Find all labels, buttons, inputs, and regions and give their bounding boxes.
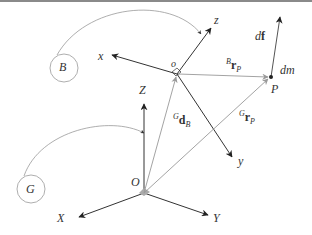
label-B: B — [59, 61, 66, 73]
label-Y: Y — [213, 212, 220, 224]
label-G: G — [26, 183, 35, 195]
label-dm: dm — [280, 64, 295, 76]
label-B-r-P: BrP — [226, 58, 241, 74]
vector-df — [271, 17, 280, 77]
global-frame-curve — [24, 126, 144, 176]
label-P: P — [271, 83, 278, 95]
label-X: X — [57, 212, 64, 224]
vector-r-P-body — [178, 74, 268, 77]
diagram-canvas: B G o x z y O Z X Y P dm df BrP GdB GrP — [0, 0, 312, 235]
label-O: O — [131, 176, 140, 188]
label-x: x — [98, 50, 103, 62]
label-y: y — [238, 155, 243, 167]
label-z: z — [214, 14, 219, 26]
axis-X — [79, 193, 144, 217]
label-G-r-P: GrP — [239, 110, 255, 126]
label-G-d-B: GdB — [173, 113, 190, 129]
label-o: o — [171, 59, 176, 69]
point-P-dot — [269, 75, 273, 79]
diagram-svg — [0, 0, 312, 235]
vector-d-B — [144, 77, 176, 193]
axis-z — [177, 28, 211, 74]
vector-r-P-global — [144, 79, 268, 193]
label-Z: Z — [139, 84, 146, 96]
axis-Y — [144, 193, 208, 215]
body-frame-curve — [57, 10, 201, 55]
body-origin-marker — [172, 68, 181, 76]
axis-x — [112, 55, 177, 74]
label-df: df — [255, 30, 265, 42]
